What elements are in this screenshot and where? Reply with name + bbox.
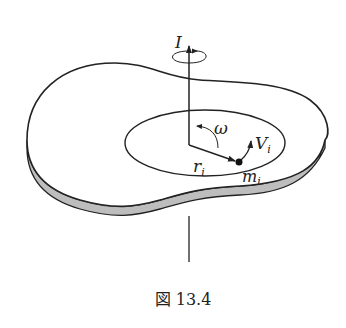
label-omega: ω [214, 118, 228, 138]
label-moment-of-inertia: I [174, 32, 182, 52]
mass-point [236, 159, 243, 166]
rotating-disk-diagram: I ω ri Vi mi 図 13.4 [0, 0, 346, 328]
figure-caption: 図 13.4 [155, 290, 212, 309]
